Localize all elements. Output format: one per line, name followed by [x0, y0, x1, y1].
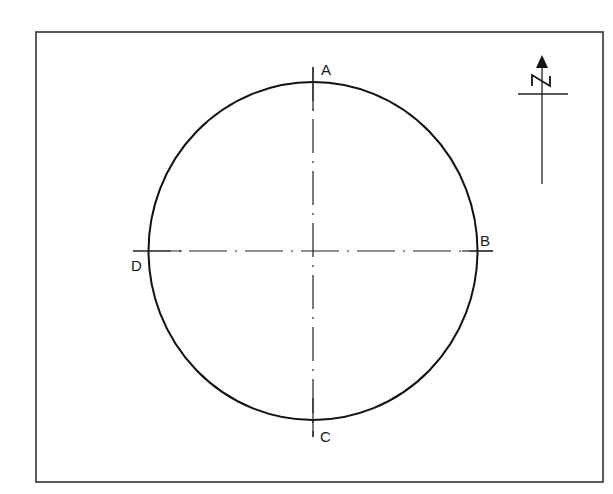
north-arrow-icon [518, 55, 568, 184]
point-label-b: B [480, 233, 490, 248]
point-label-c: C [320, 429, 331, 444]
diagram-canvas [0, 0, 613, 494]
point-label-d: D [131, 258, 142, 273]
point-label-a: A [321, 62, 331, 77]
diagram-frame [36, 32, 603, 482]
